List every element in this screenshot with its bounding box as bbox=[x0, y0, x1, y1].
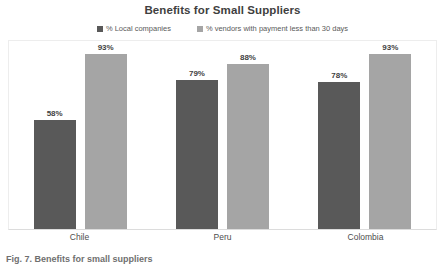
category-axis: Chile Peru Colombia bbox=[8, 232, 437, 242]
bar-value-label: 88% bbox=[227, 53, 269, 62]
bar-value-label: 93% bbox=[369, 43, 411, 52]
bars-container: 58% 93% 79% 88% bbox=[9, 41, 436, 229]
legend-swatch-icon bbox=[197, 26, 203, 32]
bar-vendors-payment-chile[interactable] bbox=[85, 54, 127, 229]
bar-group-chile: 58% 93% bbox=[9, 41, 151, 229]
bar-chart: Benefits for Small Suppliers % Local com… bbox=[0, 0, 445, 264]
legend-item-vendors-payment-30-days[interactable]: % vendors with payment less than 30 days bbox=[197, 24, 348, 33]
bar-vendors-payment-colombia[interactable] bbox=[369, 54, 411, 229]
bar-group-colombia: 78% 93% bbox=[294, 41, 436, 229]
bar-slot: 58% bbox=[34, 41, 76, 229]
bar-slot: 93% bbox=[85, 41, 127, 229]
bar-slot: 88% bbox=[227, 41, 269, 229]
chart-title: Benefits for Small Suppliers bbox=[0, 4, 445, 16]
bar-value-label: 78% bbox=[318, 71, 360, 80]
bar-slot: 79% bbox=[176, 41, 218, 229]
bar-slot: 93% bbox=[369, 41, 411, 229]
category-label-chile: Chile bbox=[8, 232, 151, 242]
figure-caption-text: Fig. 7. Benefits for small suppliers bbox=[6, 254, 306, 264]
legend-swatch-icon bbox=[97, 26, 103, 32]
bar-value-label: 93% bbox=[85, 43, 127, 52]
category-label-peru: Peru bbox=[151, 232, 294, 242]
bar-slot: 78% bbox=[318, 41, 360, 229]
bar-value-label: 79% bbox=[176, 69, 218, 78]
category-label-colombia: Colombia bbox=[294, 232, 437, 242]
plot-area: 58% 93% 79% 88% bbox=[8, 40, 437, 230]
legend-label: % Local companies bbox=[106, 24, 171, 33]
figure-caption: Fig. 7. Benefits for small suppliers bbox=[6, 254, 306, 264]
bar-local-companies-peru[interactable] bbox=[176, 80, 218, 229]
bar-group-peru: 79% 88% bbox=[151, 41, 293, 229]
bar-vendors-payment-peru[interactable] bbox=[227, 64, 269, 229]
bar-local-companies-chile[interactable] bbox=[34, 120, 76, 229]
bar-local-companies-colombia[interactable] bbox=[318, 82, 360, 229]
bar-value-label: 58% bbox=[34, 109, 76, 118]
legend-item-local-companies[interactable]: % Local companies bbox=[97, 24, 171, 33]
legend-label: % vendors with payment less than 30 days bbox=[206, 24, 348, 33]
chart-legend: % Local companies % vendors with payment… bbox=[0, 24, 445, 33]
